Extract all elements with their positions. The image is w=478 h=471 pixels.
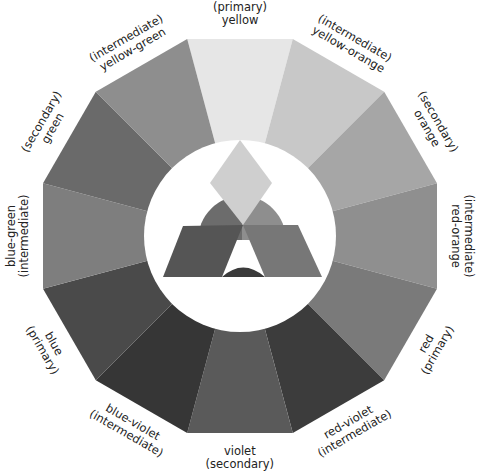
label-yellow: (primary)yellow xyxy=(213,1,267,27)
label-line-2: (secondary) xyxy=(206,458,275,471)
label-line-2: red-orange xyxy=(449,195,462,278)
label-blue-green: blue-green(intermediate) xyxy=(5,195,31,278)
label-line-1: (intermediate) xyxy=(462,195,475,278)
label-line-2: yellow xyxy=(213,14,267,27)
label-red-orange: (intermediate)red-orange xyxy=(449,195,475,278)
label-violet: violet(secondary) xyxy=(206,445,275,471)
label-line-1: blue-green xyxy=(5,195,18,278)
label-line-2: (intermediate) xyxy=(18,195,31,278)
